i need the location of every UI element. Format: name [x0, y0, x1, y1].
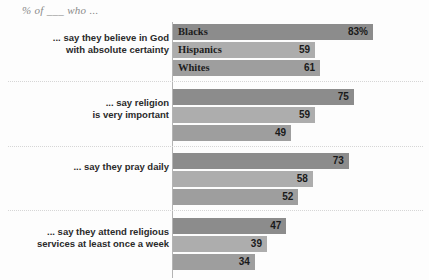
bar-value-label: 59: [285, 107, 310, 123]
group-category-label: ... say they pray daily: [9, 161, 169, 173]
group-label-line-1: ... say they pray daily: [9, 161, 169, 173]
group-label-line-1: ... say religion: [9, 97, 169, 109]
bar-value-label: 39: [237, 236, 262, 252]
group-divider: [8, 210, 423, 212]
group-label-line-1: ... say they believe in God: [9, 32, 169, 44]
plot-area: ... say they believe in Godwith absolute…: [0, 22, 429, 280]
bar-value-label: 49: [261, 125, 286, 141]
bar-value-label: 61: [290, 60, 315, 76]
group-divider: [8, 81, 423, 83]
bar-value-label: 75: [324, 89, 349, 105]
group-label-line-2: is very important: [9, 109, 169, 121]
bar-value-label: 47: [256, 218, 281, 234]
group-divider: [8, 146, 423, 148]
bar-value-label: 83%: [343, 24, 368, 40]
group-category-label: ... say they attend religiousservices at…: [9, 226, 169, 249]
series-label-hispanics: Hispanics: [178, 42, 222, 58]
bar-value-label: 52: [268, 189, 293, 205]
group-category-label: ... say they believe in Godwith absolute…: [9, 32, 169, 55]
bar-value-label: 59: [285, 42, 310, 58]
series-label-blacks: Blacks: [178, 24, 208, 40]
chart-title: % of ___ who ...: [22, 4, 99, 16]
series-label-whites: Whites: [178, 60, 210, 76]
bar-value-label: 73: [319, 153, 344, 169]
group-category-label: ... say religionis very important: [9, 97, 169, 120]
group-label-line-1: ... say they attend religious: [9, 226, 169, 238]
bar-value-label: 34: [225, 254, 250, 270]
group-label-line-2: with absolute certainty: [9, 44, 169, 56]
chart-page: % of ___ who ... ... say they believe in…: [0, 0, 429, 280]
bar-value-label: 58: [283, 171, 308, 187]
group-label-line-2: services at least once a week: [9, 238, 169, 250]
